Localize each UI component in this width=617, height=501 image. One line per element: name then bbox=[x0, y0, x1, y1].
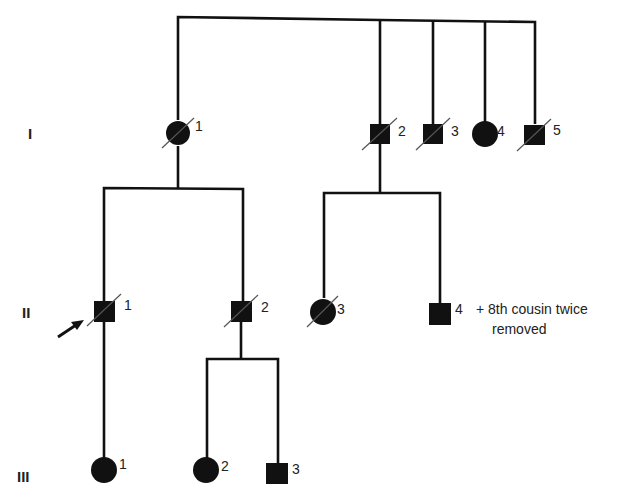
i1-sibship-lines bbox=[104, 146, 243, 302]
individual-i-1[interactable]: 1 bbox=[162, 118, 203, 148]
i2-sibship-lines bbox=[324, 143, 440, 303]
affected-male-icon bbox=[266, 463, 288, 484]
annotation-line-1: + 8th cousin twice bbox=[476, 301, 588, 317]
individual-number: 1 bbox=[195, 118, 203, 134]
individual-number: 5 bbox=[553, 122, 561, 138]
annotation-ii-4: + 8th cousin twice removed bbox=[476, 301, 588, 337]
individual-number: 3 bbox=[292, 461, 300, 477]
generation-label-i: I bbox=[28, 125, 32, 142]
individual-number: 2 bbox=[398, 123, 406, 139]
individual-i-2[interactable]: 2 bbox=[362, 118, 406, 150]
individual-ii-4[interactable]: 4 bbox=[429, 301, 463, 325]
pedigree-chart: I II III 1 2 3 4 bbox=[0, 0, 617, 501]
affected-female-icon bbox=[310, 299, 336, 325]
ii2-sibship-lines bbox=[207, 320, 278, 464]
individual-iii-1[interactable]: 1 bbox=[91, 456, 127, 483]
individual-ii-3[interactable]: 3 bbox=[307, 296, 345, 327]
generation-label-ii: II bbox=[22, 304, 30, 321]
affected-female-icon bbox=[472, 121, 498, 147]
individual-i-5[interactable]: 5 bbox=[517, 119, 561, 151]
individual-number: 1 bbox=[119, 456, 127, 472]
individual-number: 2 bbox=[221, 458, 229, 474]
individual-iii-2[interactable]: 2 bbox=[193, 457, 229, 483]
individual-ii-2[interactable]: 2 bbox=[224, 295, 269, 327]
individual-iii-3[interactable]: 3 bbox=[266, 461, 300, 484]
individual-ii-1[interactable]: 1 bbox=[87, 294, 132, 326]
gen-i-sibship-lines bbox=[178, 17, 535, 124]
individual-number: 4 bbox=[497, 123, 505, 139]
individual-number: 4 bbox=[455, 301, 463, 317]
affected-male-icon bbox=[94, 301, 115, 322]
proband-arrow bbox=[58, 320, 84, 337]
affected-female-icon bbox=[193, 457, 219, 483]
individual-number: 1 bbox=[124, 297, 132, 313]
affected-female-icon bbox=[91, 457, 117, 483]
annotation-line-2: removed bbox=[492, 321, 546, 337]
individual-number: 3 bbox=[451, 123, 459, 139]
affected-male-icon bbox=[429, 303, 451, 325]
individual-i-3[interactable]: 3 bbox=[416, 118, 459, 150]
generation-label-iii: III bbox=[17, 468, 30, 485]
individual-i-4[interactable]: 4 bbox=[472, 121, 505, 147]
individual-number: 3 bbox=[337, 301, 345, 317]
individual-number: 2 bbox=[261, 299, 269, 315]
